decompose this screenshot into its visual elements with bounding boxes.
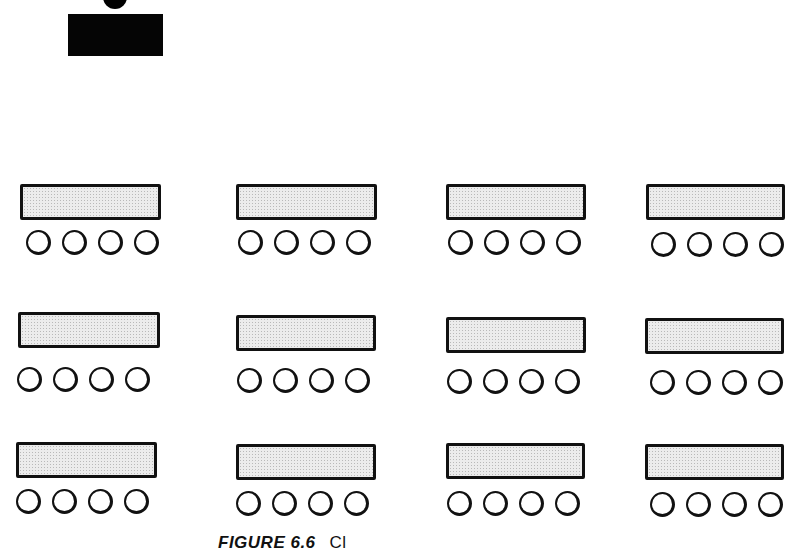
- chair-icon: [308, 491, 333, 516]
- chair-group: [447, 491, 580, 516]
- student-desk: [236, 444, 376, 480]
- student-desk: [236, 184, 377, 220]
- chair-icon: [89, 367, 114, 392]
- chair-icon: [273, 368, 298, 393]
- student-desk: [645, 444, 784, 480]
- chair-group: [651, 232, 784, 257]
- student-desk: [20, 184, 161, 220]
- student-desk: [18, 312, 160, 348]
- chair-icon: [556, 230, 581, 255]
- chair-group: [236, 491, 369, 516]
- chair-icon: [723, 232, 748, 257]
- chair-icon: [686, 370, 711, 395]
- chair-group: [447, 369, 580, 394]
- chair-icon: [483, 369, 508, 394]
- chair-group: [16, 489, 149, 514]
- chair-icon: [722, 492, 747, 517]
- chair-group: [26, 230, 159, 255]
- chair-icon: [519, 491, 544, 516]
- chair-icon: [310, 230, 335, 255]
- student-desk: [236, 315, 376, 351]
- chair-icon: [650, 370, 675, 395]
- chair-icon: [447, 369, 472, 394]
- chair-icon: [758, 492, 783, 517]
- student-desk: [446, 443, 585, 479]
- chair-icon: [686, 492, 711, 517]
- chair-icon: [520, 230, 545, 255]
- chair-icon: [274, 230, 299, 255]
- chair-group: [448, 230, 581, 255]
- chair-icon: [53, 367, 78, 392]
- chair-icon: [345, 368, 370, 393]
- figure-caption: FIGURE 6.6Cl: [218, 533, 347, 552]
- teacher-desk: [68, 14, 163, 56]
- chair-icon: [62, 230, 87, 255]
- chair-icon: [125, 367, 150, 392]
- chair-icon: [88, 489, 113, 514]
- chair-icon: [272, 491, 297, 516]
- chair-icon: [236, 491, 261, 516]
- chair-icon: [124, 489, 149, 514]
- chair-icon: [98, 230, 123, 255]
- chair-icon: [26, 230, 51, 255]
- chair-icon: [759, 232, 784, 257]
- chair-icon: [722, 370, 747, 395]
- chair-group: [650, 492, 783, 517]
- figure-label: FIGURE 6.6: [218, 533, 316, 552]
- figure-title: Cl: [330, 533, 347, 552]
- chair-icon: [758, 370, 783, 395]
- chair-icon: [651, 232, 676, 257]
- chair-group: [238, 230, 371, 255]
- chair-icon: [309, 368, 334, 393]
- student-desk: [446, 317, 586, 353]
- student-desk: [446, 184, 586, 220]
- chair-icon: [346, 230, 371, 255]
- chair-icon: [484, 230, 509, 255]
- chair-icon: [17, 367, 42, 392]
- chair-group: [237, 368, 370, 393]
- chair-group: [17, 367, 150, 392]
- chair-icon: [448, 230, 473, 255]
- chair-icon: [344, 491, 369, 516]
- chair-icon: [238, 230, 263, 255]
- student-desk: [16, 442, 157, 478]
- chair-icon: [555, 369, 580, 394]
- teacher-icon: [103, 0, 127, 9]
- chair-icon: [237, 368, 262, 393]
- chair-icon: [16, 489, 41, 514]
- chair-group: [650, 370, 783, 395]
- student-desk: [646, 184, 785, 220]
- chair-icon: [650, 492, 675, 517]
- chair-icon: [447, 491, 472, 516]
- chair-icon: [483, 491, 508, 516]
- chair-icon: [134, 230, 159, 255]
- chair-icon: [52, 489, 77, 514]
- student-desk: [645, 318, 784, 354]
- chair-icon: [687, 232, 712, 257]
- chair-icon: [555, 491, 580, 516]
- chair-icon: [519, 369, 544, 394]
